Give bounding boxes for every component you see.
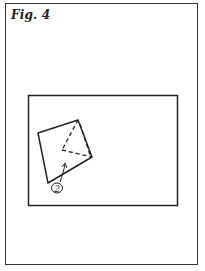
sheet-rectangle — [29, 96, 178, 206]
step-marker: 2 — [52, 183, 63, 194]
fold-diagram: 2 — [0, 0, 205, 271]
paper-square — [38, 120, 92, 183]
fold-triangle — [62, 120, 92, 157]
step-number: 2 — [53, 184, 60, 194]
